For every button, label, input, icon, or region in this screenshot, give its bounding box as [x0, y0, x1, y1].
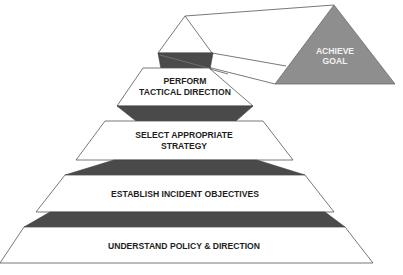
- apex-triangle: [158, 16, 212, 53]
- tier-understand-label: UNDERSTAND POLICY & DIRECTION: [108, 241, 260, 251]
- tier-perform-label-line2: TACTICAL DIRECTION: [139, 87, 231, 97]
- goal-label-line2: GOAL: [323, 56, 348, 66]
- connector-line-middle: [212, 53, 286, 66]
- tier-select-label-line1: SELECT APPROPRIATE: [135, 130, 233, 140]
- goal-label-line1: ACHIEVE: [316, 46, 354, 56]
- tier-perform-label-line1: PERFORM: [164, 76, 207, 86]
- pyramid-diagram: ACHIEVE GOAL PERFORM TACTICAL DIRECTION …: [0, 0, 403, 275]
- band-2: [65, 160, 305, 175]
- goal-triangle: [275, 5, 395, 84]
- tier-select-label-line2: STRATEGY: [161, 141, 207, 151]
- tier-establish-label: ESTABLISH INCIDENT OBJECTIVES: [111, 189, 259, 199]
- apex-band: [158, 53, 213, 69]
- band-3: [24, 212, 345, 227]
- connector-line-top: [185, 5, 334, 16]
- band-1: [117, 106, 253, 121]
